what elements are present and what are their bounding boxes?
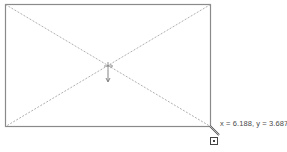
snap-square-icon: [211, 138, 218, 145]
pencil-icon: [210, 126, 219, 135]
drawing-canvas[interactable]: [0, 0, 287, 152]
arrow-down-icon: [106, 70, 110, 82]
coordinates-readout: x = 6.188, y = 3.687: [220, 119, 287, 128]
move-crosshair-icon[interactable]: [104, 62, 113, 70]
